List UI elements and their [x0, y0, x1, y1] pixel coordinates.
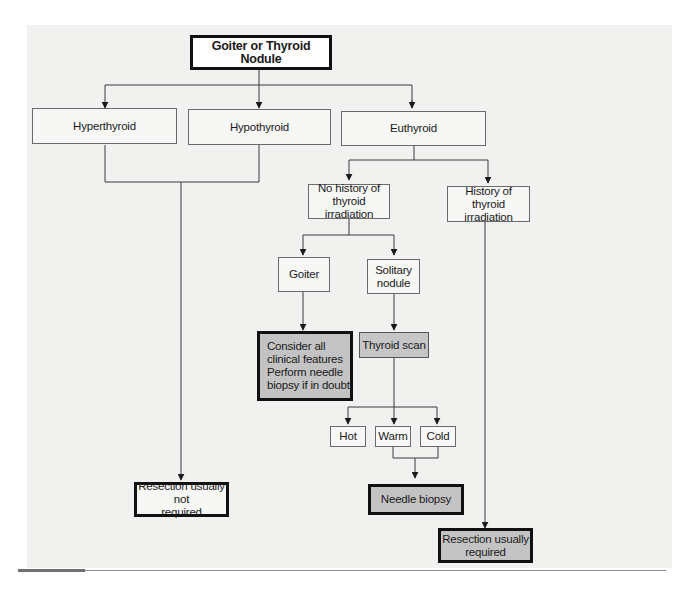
node-thyroid-scan: Thyroid scan — [359, 332, 429, 358]
node-label: Solitary nodule — [375, 264, 412, 290]
node-label: Warm — [378, 430, 407, 443]
node-cold: Cold — [420, 426, 456, 447]
connector-lines — [0, 0, 687, 590]
node-needle-biopsy: Needle biopsy — [368, 484, 464, 515]
bottom-rule-accent — [18, 569, 85, 572]
node-hypothyroid: Hypothyroid — [188, 109, 331, 145]
node-consider-clinical-features: Consider all clinical features Perform n… — [257, 331, 353, 401]
node-label: Needle biopsy — [381, 493, 451, 506]
node-label: Resection usually not required — [137, 480, 226, 519]
node-solitary-nodule: Solitary nodule — [367, 259, 420, 294]
node-history-of-irradiation: History of thyroid irradiation — [447, 186, 530, 222]
node-label: Hyperthyroid — [73, 120, 136, 133]
node-hyperthyroid: Hyperthyroid — [32, 108, 177, 144]
node-label: Resection usually required — [442, 533, 529, 559]
node-warm: Warm — [375, 426, 411, 447]
node-resection-required: Resection usually required — [438, 528, 533, 563]
node-label: History of thyroid irradiation — [448, 185, 529, 224]
node-hot: Hot — [330, 426, 366, 447]
bottom-rule — [18, 570, 666, 571]
node-goiter: Goiter — [278, 257, 330, 292]
node-no-history-of-irradiation: No history of thyroid irradiation — [308, 184, 390, 219]
node-label: Hot — [339, 430, 356, 443]
node-euthyroid: Euthyroid — [341, 111, 486, 146]
node-label: Goiter or Thyroid Nodule — [193, 40, 329, 66]
node-goiter-or-thyroid-nodule: Goiter or Thyroid Nodule — [190, 35, 332, 70]
node-label: Hypothyroid — [230, 121, 289, 134]
node-label: Thyroid scan — [362, 339, 425, 352]
node-label: Goiter — [289, 268, 319, 281]
node-label: Cold — [427, 430, 450, 443]
node-label: Consider all clinical features Perform n… — [267, 340, 350, 392]
node-label: Euthyroid — [390, 122, 437, 135]
node-resection-not-required: Resection usually not required — [134, 482, 229, 517]
node-label: No history of thyroid irradiation — [309, 182, 389, 221]
